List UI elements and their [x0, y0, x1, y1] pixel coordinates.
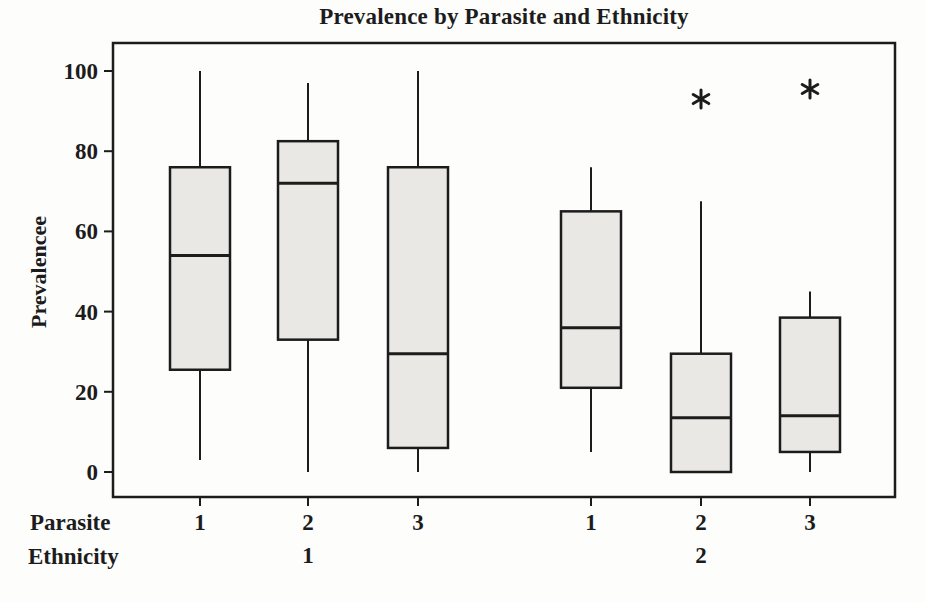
ethnicity-tick-label: 1	[302, 543, 314, 568]
figure-canvas: Prevalence by Parasite and Ethnicity Pre…	[0, 0, 925, 602]
boxplot-chart: 02040608010012312312	[0, 0, 925, 602]
box-iqr	[278, 141, 338, 339]
y-axis-tick-label: 100	[64, 59, 99, 84]
y-axis-tick-label: 80	[75, 139, 98, 164]
box-iqr	[388, 167, 448, 448]
y-axis-tick-label: 40	[75, 300, 98, 325]
y-axis-tick-label: 60	[75, 219, 98, 244]
box-iqr	[780, 318, 840, 452]
box-iqr	[170, 167, 230, 370]
y-axis-tick-label: 20	[75, 380, 98, 405]
ethnicity-tick-label: 2	[695, 543, 707, 568]
parasite-tick-label: 3	[804, 510, 816, 535]
parasite-tick-label: 1	[194, 510, 206, 535]
parasite-tick-label: 2	[302, 510, 314, 535]
parasite-tick-label: 1	[585, 510, 597, 535]
parasite-tick-label: 2	[695, 510, 707, 535]
parasite-tick-label: 3	[412, 510, 424, 535]
box-iqr	[561, 211, 621, 387]
y-axis-tick-label: 0	[87, 460, 99, 485]
box-iqr	[671, 354, 731, 472]
